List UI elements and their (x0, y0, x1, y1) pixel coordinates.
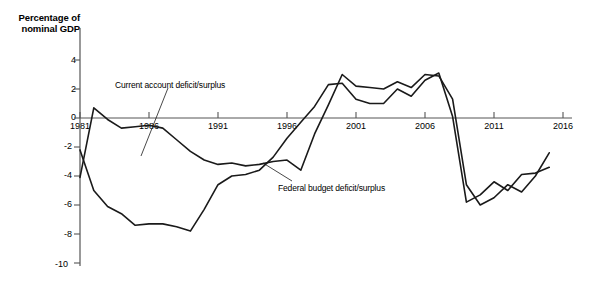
x-tick-marks (80, 112, 563, 118)
leader-line-current-account (141, 88, 168, 156)
plot-area (0, 0, 589, 291)
chart-container: Percentage of nominal GDP 4 2 0 -2 -4 -6… (0, 0, 589, 291)
series-line-federal-budget (80, 75, 549, 206)
annotation-leader-lines (141, 88, 292, 181)
series-line-current-account (80, 73, 549, 231)
leader-line-federal-budget (263, 163, 292, 181)
y-tick-marks (74, 60, 80, 263)
axes-group (74, 28, 572, 266)
data-series-group (80, 73, 549, 231)
